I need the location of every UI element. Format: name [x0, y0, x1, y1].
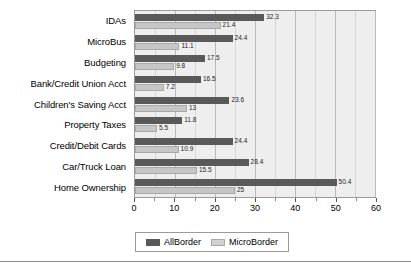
- legend-swatch-icon: [211, 239, 225, 246]
- x-tick-minor: [275, 198, 276, 201]
- bar-allborder: [135, 159, 249, 166]
- x-tick-minor: [356, 198, 357, 201]
- category-label: Children's Saving Acct: [0, 94, 130, 115]
- bar-microborder: [135, 84, 164, 91]
- x-tick-label: 10: [169, 203, 179, 213]
- bar-allborder: [135, 138, 233, 145]
- bar-chart: IDAsMicroBusBudgetingBank/Credit Union A…: [0, 0, 411, 270]
- chart-legend: AllBorderMicroBorder: [135, 232, 289, 252]
- bar-microborder: [135, 125, 157, 132]
- category-label: Home Ownership: [0, 177, 130, 198]
- bar-value-label: 13: [189, 104, 196, 111]
- bar-group: 23.613: [135, 94, 375, 115]
- x-tick-minor: [195, 198, 196, 201]
- category-label: Bank/Credit Union Acct: [0, 73, 130, 94]
- x-axis: 0102030405060: [134, 198, 376, 220]
- bar-value-label: 11.8: [184, 116, 196, 123]
- legend-label: MicroBorder: [229, 237, 278, 247]
- x-tick-label: 0: [131, 203, 136, 213]
- bar-allborder: [135, 179, 337, 186]
- category-label: Credit/Debit Cards: [0, 135, 130, 156]
- bar-group: 28.415.5: [135, 156, 375, 177]
- bar-value-label: 24.4: [235, 137, 248, 144]
- bar-allborder: [135, 55, 205, 62]
- bar-value-label: 25: [237, 186, 244, 193]
- bar-value-label: 23.6: [231, 96, 244, 103]
- bar-allborder: [135, 76, 201, 83]
- bar-microborder: [135, 43, 179, 50]
- legend-item[interactable]: MicroBorder: [211, 237, 278, 247]
- bar-value-label: 15.5: [199, 166, 212, 173]
- bar-allborder: [135, 117, 182, 124]
- bar-group: 50.425: [135, 176, 375, 197]
- bar-allborder: [135, 14, 264, 21]
- bar-value-label: 24.4: [235, 34, 248, 41]
- bar-group: 32.321.4: [135, 11, 375, 32]
- gridline-major: [375, 11, 376, 197]
- x-tick-major: [295, 198, 296, 202]
- x-tick-major: [336, 198, 337, 202]
- bar-value-label: 10.9: [181, 145, 194, 152]
- x-tick-major: [134, 198, 135, 202]
- category-label: Property Taxes: [0, 114, 130, 135]
- bar-value-label: 17.5: [207, 54, 220, 61]
- bar-microborder: [135, 187, 235, 194]
- x-tick-label: 50: [331, 203, 341, 213]
- bar-microborder: [135, 146, 179, 153]
- bar-group: 24.410.9: [135, 135, 375, 156]
- category-axis-labels: IDAsMicroBusBudgetingBank/Credit Union A…: [0, 10, 130, 198]
- x-tick-major: [255, 198, 256, 202]
- category-label: MicroBus: [0, 31, 130, 52]
- category-label: IDAs: [0, 10, 130, 31]
- bar-value-label: 7.2: [166, 83, 175, 90]
- bar-value-label: 9.8: [176, 62, 185, 69]
- bar-microborder: [135, 105, 187, 112]
- bar-rows: 32.321.424.411.117.59.816.57.223.61311.8…: [135, 11, 375, 197]
- bar-microborder: [135, 22, 221, 29]
- x-tick-minor: [154, 198, 155, 201]
- bar-group: 17.59.8: [135, 52, 375, 73]
- bar-value-label: 11.1: [181, 42, 193, 49]
- x-tick-minor: [316, 198, 317, 201]
- plot-area: 32.321.424.411.117.59.816.57.223.61311.8…: [134, 10, 376, 198]
- x-tick-label: 60: [371, 203, 381, 213]
- bar-group: 11.85.5: [135, 114, 375, 135]
- bar-value-label: 16.5: [203, 75, 216, 82]
- legend-swatch-icon: [146, 239, 160, 246]
- bar-allborder: [135, 35, 233, 42]
- bar-value-label: 50.4: [339, 178, 352, 185]
- x-tick-major: [376, 198, 377, 202]
- x-tick-label: 40: [290, 203, 300, 213]
- x-tick-minor: [235, 198, 236, 201]
- bar-value-label: 28.4: [251, 158, 264, 165]
- x-tick-major: [174, 198, 175, 202]
- bar-allborder: [135, 97, 229, 104]
- legend-item[interactable]: AllBorder: [146, 237, 201, 247]
- bar-group: 24.411.1: [135, 32, 375, 53]
- bar-microborder: [135, 63, 174, 70]
- bar-group: 16.57.2: [135, 73, 375, 94]
- x-tick-label: 30: [250, 203, 260, 213]
- footer-divider: [0, 261, 411, 262]
- category-label: Budgeting: [0, 52, 130, 73]
- bar-value-label: 21.4: [223, 21, 236, 28]
- bar-microborder: [135, 167, 197, 174]
- bar-value-label: 32.3: [266, 13, 279, 20]
- x-tick-label: 20: [210, 203, 220, 213]
- category-label: Car/Truck Loan: [0, 156, 130, 177]
- bar-value-label: 5.5: [159, 124, 168, 131]
- legend-label: AllBorder: [164, 237, 201, 247]
- x-tick-major: [215, 198, 216, 202]
